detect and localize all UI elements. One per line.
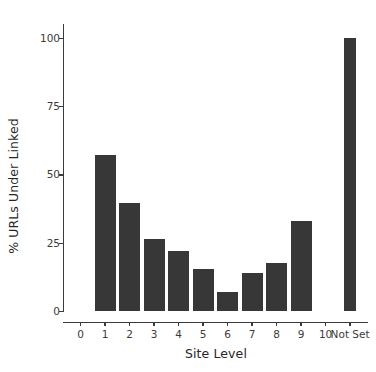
x-tick-mark [178, 322, 179, 326]
x-tick-mark [325, 322, 326, 326]
x-axis-label: Site Level [60, 346, 372, 361]
y-tick-label: 0 [53, 305, 60, 317]
x-tick-mark [153, 322, 154, 326]
x-tick-label: 7 [249, 328, 256, 340]
x-tick-mark [276, 322, 277, 326]
x-tick-mark [80, 322, 81, 326]
x-tick-label: Not Set [331, 328, 370, 340]
x-tick-label: 3 [151, 328, 158, 340]
bar-chart-figure: % URLs Under Linked Site Level 025507510… [0, 0, 376, 372]
x-tick-label: 5 [200, 328, 207, 340]
bar [144, 239, 165, 311]
x-tick-label: 8 [273, 328, 280, 340]
x-tick-label: 1 [102, 328, 109, 340]
x-tick-mark [349, 322, 350, 326]
x-tick-mark [202, 322, 203, 326]
x-tick-mark [104, 322, 105, 326]
x-tick-mark [251, 322, 252, 326]
bar [291, 221, 312, 311]
bar [193, 269, 214, 311]
plot-area: 0255075100 012345678910Not Set [63, 24, 368, 311]
bar [344, 38, 357, 311]
x-tick-label: 0 [77, 328, 84, 340]
bar [95, 155, 116, 311]
x-tick-label: 9 [298, 328, 305, 340]
x-axis-spine [63, 322, 368, 323]
y-tick-label: 25 [47, 237, 60, 249]
bar [242, 273, 263, 311]
y-axis-label: % URLs Under Linked [0, 0, 26, 372]
x-tick-label: 2 [126, 328, 133, 340]
bar [119, 203, 140, 311]
x-tick-label: 6 [224, 328, 231, 340]
x-tick-mark [227, 322, 228, 326]
x-tick-mark [300, 322, 301, 326]
x-tick-mark [129, 322, 130, 326]
y-tick-label: 75 [47, 100, 60, 112]
y-tick-label: 100 [40, 32, 60, 44]
bar [266, 263, 287, 311]
bar [168, 251, 189, 311]
bar [217, 292, 238, 311]
y-tick-label: 50 [47, 168, 60, 180]
x-tick-label: 4 [175, 328, 182, 340]
